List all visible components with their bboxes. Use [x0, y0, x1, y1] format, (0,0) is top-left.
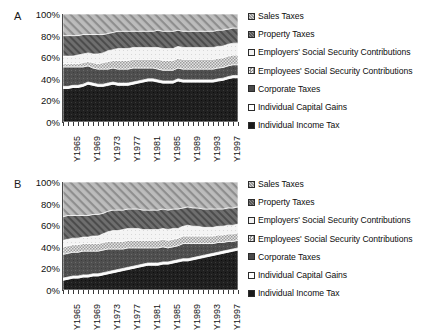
x-tick	[83, 290, 84, 294]
y-tick-label: 20%	[41, 263, 60, 274]
legend-label: Individual Capital Gains	[258, 270, 347, 280]
x-tick-label: Y1993	[212, 136, 222, 162]
x-tick	[183, 290, 184, 294]
legend-item: Employees' Social Security Contributions	[248, 233, 412, 245]
x-tick	[218, 122, 219, 126]
legend-label: Employers' Social Security Contributions	[258, 215, 410, 225]
legend-swatch-icon	[248, 253, 255, 260]
chart-panel-b: B 100%80%60%40%20%0%	[0, 168, 435, 336]
x-tick	[153, 290, 154, 294]
legend-item: Corporate Taxes	[248, 83, 320, 95]
y-tick-label: 100%	[36, 9, 60, 20]
legend-swatch-icon	[248, 85, 255, 92]
x-tick-label: Y1989	[192, 304, 202, 330]
legend-label: Sales Taxes	[258, 11, 304, 21]
x-tick	[178, 122, 179, 126]
x-tick	[128, 290, 129, 294]
legend-swatch-icon	[248, 217, 255, 224]
x-tick	[73, 122, 74, 126]
x-tick-label: Y1973	[112, 304, 122, 330]
x-tick	[173, 122, 174, 126]
x-tick	[228, 122, 229, 126]
legend-label: Individual Income Tax	[258, 288, 339, 298]
x-tick	[188, 290, 189, 294]
legend-swatch-icon	[248, 104, 255, 111]
x-tick	[88, 290, 89, 294]
x-axis-ticks-a	[63, 122, 238, 126]
x-tick	[208, 290, 209, 294]
x-tick	[78, 290, 79, 294]
x-tick	[153, 122, 154, 126]
legend-item: Sales Taxes	[248, 10, 304, 22]
legend-item: Employers' Social Security Contributions	[248, 46, 410, 58]
x-tick	[193, 122, 194, 126]
x-tick-label: Y1981	[152, 136, 162, 162]
x-tick	[108, 290, 109, 294]
x-tick	[113, 290, 114, 294]
legend-a: Sales TaxesProperty TaxesEmployers' Soci…	[248, 10, 434, 150]
x-tick	[113, 122, 114, 126]
legend-label: Corporate Taxes	[258, 252, 320, 262]
x-tick	[133, 122, 134, 126]
x-tick	[88, 122, 89, 126]
x-tick-label: Y1969	[92, 304, 102, 330]
x-tick	[98, 122, 99, 126]
legend-swatch-icon	[248, 181, 255, 188]
y-tick-label: 80%	[41, 198, 60, 209]
x-tick	[118, 290, 119, 294]
x-tick	[223, 290, 224, 294]
legend-label: Employees' Social Security Contributions	[258, 66, 412, 76]
legend-swatch-icon	[248, 199, 255, 206]
y-tick-label: 20%	[41, 95, 60, 106]
x-tick-label: Y1977	[132, 304, 142, 330]
x-tick	[63, 122, 64, 126]
x-tick	[218, 290, 219, 294]
x-tick	[168, 122, 169, 126]
x-tick	[78, 122, 79, 126]
x-tick	[63, 290, 64, 294]
x-tick	[148, 290, 149, 294]
legend-swatch-icon	[248, 49, 255, 56]
x-tick-label: Y1965	[72, 136, 82, 162]
x-tick-label: Y1989	[192, 136, 202, 162]
x-tick	[213, 290, 214, 294]
x-tick	[163, 122, 164, 126]
legend-swatch-icon	[248, 122, 255, 129]
x-tick-label: Y1985	[172, 304, 182, 330]
x-tick	[133, 290, 134, 294]
x-tick-label: Y1969	[92, 136, 102, 162]
y-tick-label: 0%	[46, 285, 60, 296]
x-tick	[93, 122, 94, 126]
x-tick	[213, 122, 214, 126]
x-tick	[233, 290, 234, 294]
x-tick	[238, 290, 239, 294]
legend-label: Employers' Social Security Contributions	[258, 47, 410, 57]
legend-item: Individual Capital Gains	[248, 269, 347, 281]
x-tick	[68, 122, 69, 126]
legend-item: Employees' Social Security Contributions	[248, 65, 412, 77]
x-tick	[203, 122, 204, 126]
legend-item: Property Taxes	[248, 196, 314, 208]
x-tick	[103, 290, 104, 294]
x-tick	[138, 290, 139, 294]
legend-label: Sales Taxes	[258, 179, 304, 189]
x-tick	[188, 122, 189, 126]
x-tick	[203, 290, 204, 294]
legend-item: Individual Capital Gains	[248, 101, 347, 113]
legend-label: Individual Income Tax	[258, 120, 339, 130]
x-tick	[233, 122, 234, 126]
x-tick-label: Y1977	[132, 136, 142, 162]
x-tick-label: Y1997	[232, 136, 242, 162]
legend-item: Corporate Taxes	[248, 251, 320, 263]
x-tick	[198, 122, 199, 126]
x-tick	[108, 122, 109, 126]
legend-item: Sales Taxes	[248, 178, 304, 190]
legend-label: Property Taxes	[258, 197, 314, 207]
x-tick	[198, 290, 199, 294]
x-tick	[163, 290, 164, 294]
x-tick-label: Y1985	[172, 136, 182, 162]
y-tick-label: 40%	[41, 73, 60, 84]
x-tick	[173, 290, 174, 294]
x-tick	[103, 122, 104, 126]
legend-item: Individual Income Tax	[248, 119, 339, 131]
